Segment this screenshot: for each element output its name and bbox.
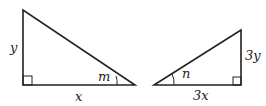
right-angle-marker-right [233,77,241,85]
right-angle-marker-left [23,76,32,85]
right-triangle: n 3y 3x [154,30,261,103]
angle-arc-n [172,74,174,85]
angle-arc-m [116,76,117,85]
right-triangle-shape [154,30,241,85]
similar-triangles-diagram: y x m n 3y 3x [0,0,266,106]
label-m: m [98,69,110,84]
label-3x: 3x [193,88,209,103]
label-y: y [9,40,18,55]
label-3y: 3y [245,48,261,63]
left-triangle-shape [23,10,135,85]
label-x: x [75,89,83,104]
left-triangle: y x m [9,10,135,104]
label-n: n [182,66,190,81]
